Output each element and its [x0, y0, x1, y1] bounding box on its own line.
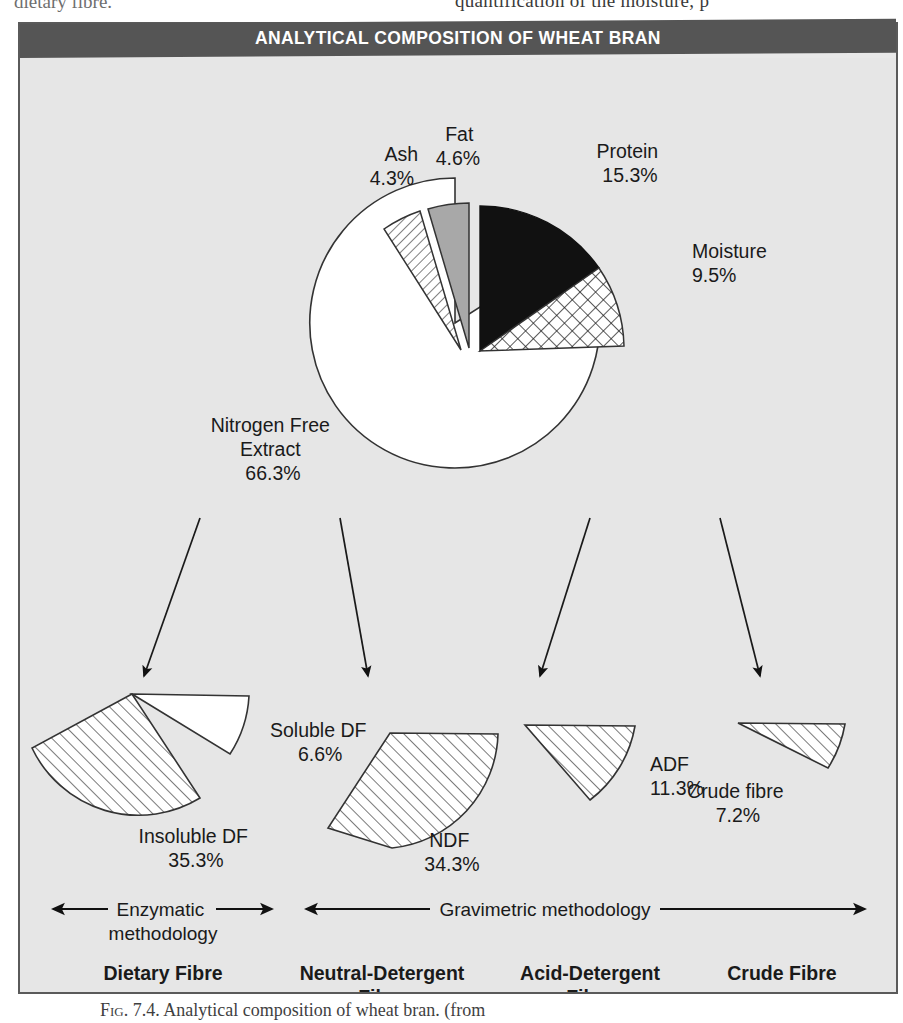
- summary-title-adf-line2: Fibre: [566, 986, 614, 992]
- gravimetric-label: Gravimetric methodology: [439, 899, 651, 920]
- summary-column-dietary-fibre: Dietary Fibre 41.6% of bran 62.7% of NFE: [103, 962, 222, 992]
- breakdown-arrows: [144, 518, 760, 676]
- arrow-to-dietary-fibre: [144, 518, 200, 676]
- sub-wedge-label-crude-fibre: Crude fibre 7.2%: [687, 780, 789, 826]
- summary-column-ndf: Neutral-Detergent Fibre 34.3% of bran 51…: [300, 962, 465, 992]
- summary-title-adf-line1: Acid-Detergent: [520, 962, 660, 984]
- arrow-to-adf: [540, 518, 590, 676]
- page-text-fragment-right: quantification of the moisture, p: [455, 0, 709, 14]
- pie-label-protein: Protein 15.3%: [596, 140, 663, 186]
- pie-label-moisture: Moisture 9.5%: [692, 240, 772, 286]
- methodology-gravimetric: Gravimetric methodology: [306, 899, 865, 920]
- pie-label-ash: Ash 4.3%: [370, 143, 424, 189]
- sub-wedge-label-insoluble-df: Insoluble DF 35.3%: [139, 825, 254, 871]
- sub-label-ndf-value: 34.3%: [424, 853, 479, 875]
- gravimetric-label-line1: Gravimetric methodology: [439, 899, 651, 920]
- sub-label-insoluble-df-value: 35.3%: [168, 849, 223, 871]
- pie-label-nfe: Nitrogen Free Extract 66.3%: [211, 414, 336, 484]
- pie-label-fat: Fat 4.6%: [436, 123, 480, 169]
- summary-title-ndf-line1: Neutral-Detergent: [300, 962, 465, 984]
- summary-stat1-dietary-fibre: 41.6% of bran: [104, 989, 222, 992]
- summary-title-crude-fibre: Crude Fibre: [727, 962, 837, 984]
- pie-label-protein-name: Protein: [596, 140, 658, 162]
- figure-frame: ANALYTICAL COMPOSITION OF WHEAT BRAN: [18, 22, 898, 994]
- figure-title: ANALYTICAL COMPOSITION OF WHEAT BRAN: [255, 28, 661, 49]
- pie-label-nfe-name: Nitrogen Free: [211, 414, 330, 436]
- enzymatic-label-line1: Enzymatic: [117, 899, 205, 920]
- sub-wedge-group-dietary-fibre: [32, 694, 249, 815]
- pie-label-moisture-value: 9.5%: [692, 264, 736, 286]
- enzymatic-label: Enzymatic methodology: [109, 899, 218, 944]
- summary-title-ndf-line2: Fibre: [358, 986, 406, 992]
- sub-label-soluble-df-name: Soluble DF: [270, 719, 367, 741]
- sub-label-adf-name: ADF: [650, 753, 689, 775]
- pie-label-moisture-name: Moisture: [692, 240, 767, 262]
- figure-caption-prefix: Fig. 7.4.: [100, 1000, 160, 1020]
- page-text-fragment-left: dietary fibre.: [14, 0, 112, 13]
- methodology-enzymatic: Enzymatic methodology: [53, 899, 272, 944]
- pie-chart: Protein 15.3% Moisture 9.5% Nitrogen Fre…: [211, 123, 773, 484]
- arrow-to-ndf: [340, 518, 368, 676]
- pie-label-nfe-value: 66.3%: [245, 462, 300, 484]
- figure-caption: Fig. 7.4. Analytical composition of whea…: [100, 1000, 800, 1023]
- pie-label-ash-value: 4.3%: [370, 167, 414, 189]
- pie-label-ash-name: Ash: [384, 143, 418, 165]
- arrow-to-crude-fibre: [720, 518, 760, 676]
- summary-stat1-crude-fibre: 7.2% of bran: [728, 989, 836, 992]
- figure-caption-text: Analytical composition of wheat bran. (f…: [163, 1000, 485, 1020]
- summary-column-adf: Acid-Detergent Fibre 11.3% of bran 17.0%…: [520, 962, 660, 992]
- summary-title-dietary-fibre: Dietary Fibre: [103, 962, 222, 984]
- sub-label-crude-fibre-name: Crude fibre: [687, 780, 783, 802]
- sub-label-ndf-name: NDF: [429, 829, 469, 851]
- sub-wedge-adf[interactable]: [525, 725, 635, 800]
- pie-label-protein-value: 15.3%: [602, 164, 657, 186]
- pie-label-fat-value: 4.6%: [436, 147, 480, 169]
- sub-wedge-crude-fibre[interactable]: [738, 723, 845, 768]
- enzymatic-label-line2: methodology: [109, 923, 218, 944]
- pie-label-nfe-name2: Extract: [240, 438, 301, 460]
- figure-title-bar: ANALYTICAL COMPOSITION OF WHEAT BRAN: [20, 19, 896, 58]
- sub-label-insoluble-df-name: Insoluble DF: [139, 825, 249, 847]
- figure-body: Protein 15.3% Moisture 9.5% Nitrogen Fre…: [20, 58, 896, 992]
- sub-label-crude-fibre-value: 7.2%: [716, 804, 760, 826]
- sub-wedge-label-ndf: NDF 34.3%: [424, 829, 479, 875]
- summary-column-crude-fibre: Crude Fibre 7.2% of bran 10.8% of NFE: [723, 962, 841, 992]
- wheat-bran-composition-chart: Protein 15.3% Moisture 9.5% Nitrogen Fre…: [20, 58, 896, 992]
- pie-label-fat-name: Fat: [445, 123, 474, 145]
- sub-wedge-label-soluble-df: Soluble DF 6.6%: [270, 719, 372, 765]
- sub-label-soluble-df-value: 6.6%: [298, 743, 342, 765]
